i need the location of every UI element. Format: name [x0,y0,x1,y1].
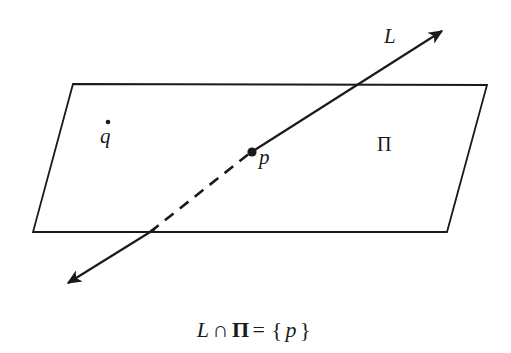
caption-set-close: } [297,317,314,342]
figure-root: L q p Π L∩Π={p} [0,0,511,353]
caption-set-open: { [269,317,286,342]
figure-caption: L∩Π={p} [0,317,511,343]
caption-plane-symbol: Π [232,317,250,342]
point-p-dot [247,147,256,156]
plane-label-pi: Π [377,134,391,154]
caption-line-symbol: L [197,317,210,342]
caption-intersection-symbol: ∩ [210,317,232,342]
point-label-p: p [259,147,270,168]
caption-point-symbol: p [286,317,298,342]
geometry-diagram [0,0,511,353]
line-label-L: L [384,26,396,47]
point-label-q: q [100,126,111,147]
line-L-lower-solid-segment [68,229,155,283]
caption-equals-symbol: = [250,317,269,342]
